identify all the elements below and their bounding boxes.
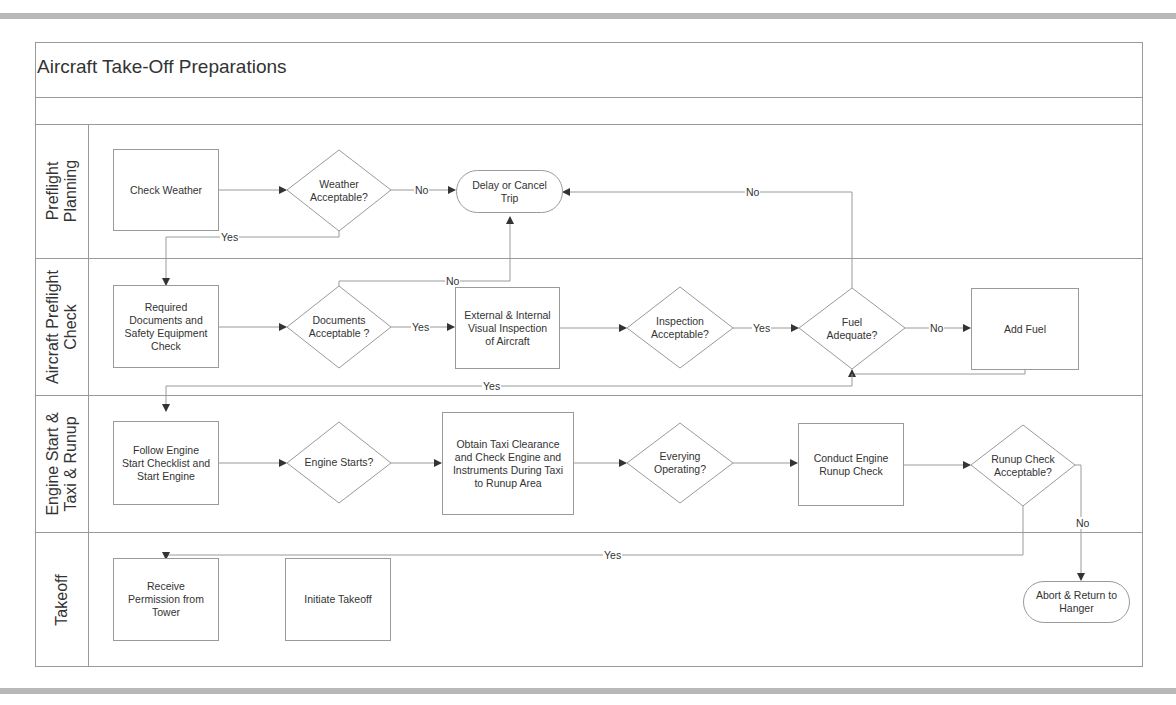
decision-engine-starts: [287, 422, 391, 503]
process-check-weather: Check Weather: [113, 149, 219, 231]
terminator-abort-return: Abort & Return to Hanger: [1023, 581, 1130, 623]
connector-label-runup-no: No: [1075, 517, 1090, 529]
process-receive-permission: Receive Permission from Tower: [113, 558, 219, 641]
decision-runup-acceptable: [971, 425, 1075, 506]
process-add-fuel: Add Fuel: [971, 288, 1079, 370]
process-visual-inspection: External & Internal Visual Inspection of…: [455, 287, 560, 369]
decision-weather-acceptable: [287, 150, 391, 231]
connector-label-fuel-yes: Yes: [482, 380, 501, 392]
connector-label-fuel-no-right: No: [929, 322, 944, 334]
process-initiate-takeoff: Initiate Takeoff: [285, 558, 391, 641]
decision-everything-operating: [627, 423, 733, 503]
connector-label-docs-yes: Yes: [411, 321, 430, 333]
connector-label-inspection-yes: Yes: [752, 322, 771, 334]
terminator-delay-cancel: Delay or Cancel Trip: [456, 170, 563, 213]
process-required-documents: Required Documents and Safety Equipment …: [113, 285, 219, 368]
connector-label-docs-no: No: [445, 275, 460, 287]
process-engine-runup: Conduct Engine Runup Check: [798, 423, 904, 506]
connector-label-weather-no: No: [414, 184, 429, 196]
decision-inspection-acceptable: [627, 287, 733, 368]
decision-documents-acceptable: [287, 286, 391, 368]
decision-fuel-adequate: [799, 288, 905, 369]
connector-label-fuel-no-top: No: [745, 186, 760, 198]
process-engine-start-checklist: Follow Engine Start Checklist and Start …: [113, 421, 219, 505]
connector-label-weather-yes: Yes: [220, 231, 239, 243]
connector-label-runup-yes: Yes: [603, 549, 622, 561]
process-taxi-clearance: Obtain Taxi Clearance and Check Engine a…: [442, 412, 574, 515]
